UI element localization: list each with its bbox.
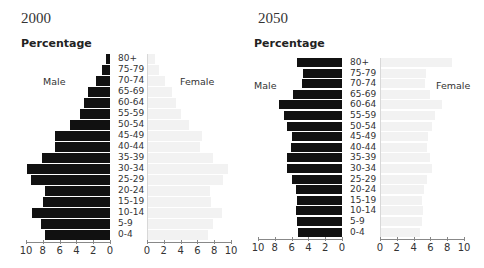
- age-group-label: 45-49: [350, 131, 376, 142]
- axis-tick: [258, 237, 259, 241]
- female-bar-0-4: [380, 228, 420, 237]
- male-bar-55-59: [284, 111, 342, 120]
- female-bar-5-9: [380, 217, 422, 226]
- male-bar-40-44: [291, 143, 342, 152]
- axis-tick: [308, 237, 309, 241]
- male-bar-20-24: [296, 185, 342, 194]
- age-group-label: 50-54: [350, 121, 376, 132]
- female-bar-55-59: [380, 111, 435, 120]
- male-bar-45-49: [292, 132, 342, 141]
- age-group-label: 80+: [350, 57, 369, 68]
- age-group-label: 30-34: [350, 163, 376, 174]
- age-group-label: 65-69: [350, 89, 376, 100]
- age-group-label: 5-9: [350, 216, 365, 227]
- age-group-label: 0-4: [350, 227, 365, 238]
- axis-tick: [414, 237, 415, 241]
- female-bar-65-69: [380, 90, 430, 99]
- axis-tick: [464, 237, 465, 241]
- female-bar-50-54: [380, 122, 432, 131]
- chart-title: 2050: [258, 10, 288, 27]
- male-bar-5-9: [297, 217, 342, 226]
- axis-tick: [430, 237, 431, 241]
- male-x-axis: [258, 239, 342, 240]
- axis-tick-label: 0: [332, 242, 352, 253]
- age-group-label: 25-29: [350, 174, 376, 185]
- female-bar-80+: [380, 58, 452, 67]
- female-bar-70-74: [380, 79, 425, 88]
- axis-tick: [275, 237, 276, 241]
- age-group-label: 55-59: [350, 110, 376, 121]
- y-axis-label: Percentage: [254, 37, 325, 50]
- male-bar-75-79: [303, 69, 342, 78]
- male-bar-15-19: [297, 196, 342, 205]
- male-bar-25-29: [292, 175, 342, 184]
- male-bar-70-74: [302, 79, 342, 88]
- age-group-label: 15-19: [350, 195, 376, 206]
- female-bar-75-79: [380, 69, 426, 78]
- male-bar-10-14: [296, 206, 342, 215]
- female-bar-60-64: [380, 100, 442, 109]
- female-bar-20-24: [380, 185, 424, 194]
- axis-tick: [342, 237, 343, 241]
- axis-tick: [380, 237, 381, 241]
- male-bar-30-34: [287, 164, 342, 173]
- age-group-label: 70-74: [350, 78, 376, 89]
- axis-tick: [325, 237, 326, 241]
- female-label: Female: [436, 80, 470, 91]
- female-bar-45-49: [380, 132, 428, 141]
- axis-tick: [447, 237, 448, 241]
- age-group-label: 75-79: [350, 68, 376, 79]
- age-group-label: 20-24: [350, 184, 376, 195]
- male-bar-80+: [297, 58, 342, 67]
- male-label: Male: [254, 80, 277, 91]
- female-bar-30-34: [380, 164, 432, 173]
- male-bar-65-69: [293, 90, 342, 99]
- pyramid-2050: 2050 Percentage Male Female 80+75-7970-7…: [0, 0, 484, 268]
- female-zero-line: [380, 58, 381, 239]
- male-bar-50-54: [287, 122, 342, 131]
- female-bar-15-19: [380, 196, 422, 205]
- axis-tick-label: 10: [454, 242, 474, 253]
- age-group-label: 10-14: [350, 205, 376, 216]
- age-group-label: 40-44: [350, 142, 376, 153]
- male-bar-60-64: [279, 100, 342, 109]
- axis-tick: [397, 237, 398, 241]
- axis-tick: [292, 237, 293, 241]
- female-bar-25-29: [380, 175, 427, 184]
- female-bar-40-44: [380, 143, 427, 152]
- female-x-axis: [380, 239, 464, 240]
- age-group-label: 60-64: [350, 99, 376, 110]
- female-bar-10-14: [380, 206, 423, 215]
- male-bar-35-39: [287, 153, 342, 162]
- female-bar-35-39: [380, 153, 430, 162]
- male-bar-0-4: [298, 228, 342, 237]
- age-group-label: 35-39: [350, 152, 376, 163]
